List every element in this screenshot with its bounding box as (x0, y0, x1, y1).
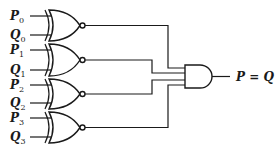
inverter-bubble (80, 58, 85, 63)
comparator-diagram: P0Q0P1Q1P2Q2P3Q3 P = Q (0, 0, 277, 151)
inverter-bubble (80, 125, 85, 130)
and-gate-body (185, 65, 212, 88)
xor-curve (45, 112, 49, 143)
input-label-q2: Q2 (10, 96, 26, 112)
gate-output-wire-2 (85, 80, 185, 94)
gate-output-wire-3 (85, 85, 185, 128)
xnor-gate-body (49, 79, 80, 109)
input-label-q0: Q0 (10, 28, 26, 44)
xnor-gate-body (49, 10, 80, 41)
input-label-p3: P3 (9, 111, 24, 127)
and-gate (185, 65, 230, 88)
xnor-gate-1: P1Q1 (9, 43, 185, 79)
input-label-p2: P2 (9, 78, 24, 94)
input-label-q1: Q1 (10, 63, 26, 79)
xnor-gate-0: P0Q0 (9, 9, 185, 68)
input-label-p0: P0 (9, 9, 24, 25)
input-label-q3: Q3 (10, 130, 26, 146)
xnor-gate-body (49, 44, 80, 76)
input-label-p1: P1 (9, 43, 24, 59)
xor-curve (45, 10, 49, 41)
gate-output-wire-1 (85, 60, 185, 73)
gate-output-wire-0 (85, 26, 185, 69)
inverter-bubble (80, 92, 85, 97)
output-label: P = Q (235, 70, 274, 84)
xnor-gate-body (49, 112, 80, 143)
inverter-bubble (80, 23, 85, 28)
xor-curve (45, 79, 49, 109)
xnor-gate-2: P2Q2 (9, 78, 185, 112)
xor-curve (45, 44, 49, 76)
